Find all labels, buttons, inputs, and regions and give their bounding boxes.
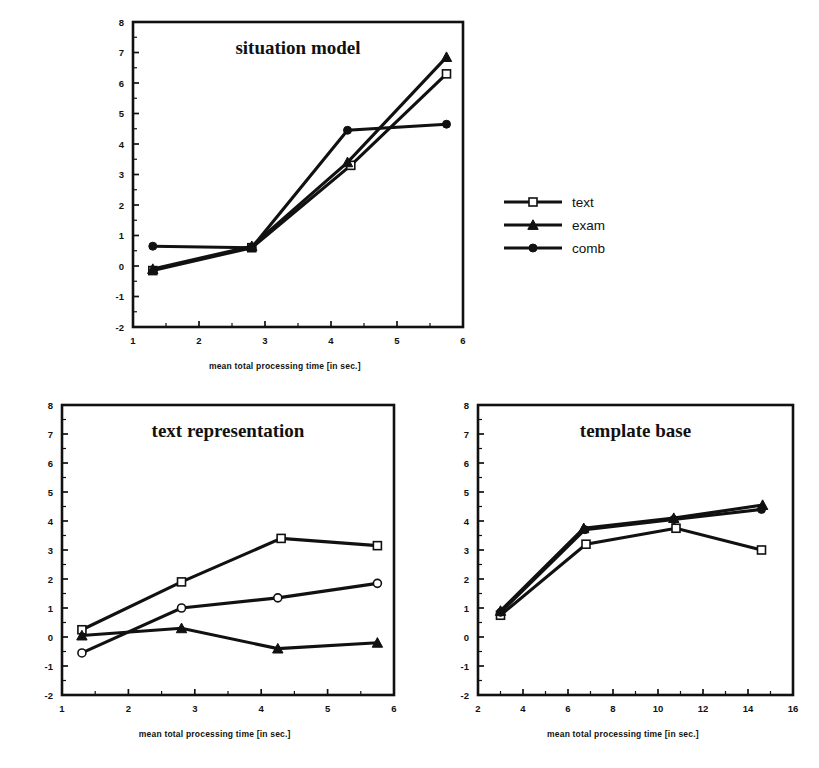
y-tick-label: 7 <box>48 429 53 440</box>
marker-circle-2-3 <box>373 579 381 587</box>
panel-template-base: -2-1012345678246810121416template baseme… <box>438 393 808 753</box>
x-tick-label: 2 <box>475 703 480 714</box>
y-tick-label: 5 <box>464 487 470 498</box>
chart-template-base: -2-1012345678246810121416template baseme… <box>438 393 808 753</box>
chart-situation-model: -2-1012345678123456situation modelmean t… <box>95 10 495 365</box>
legend-svg: textexamcomb <box>500 192 660 272</box>
y-tick-label: 8 <box>464 400 469 411</box>
y-tick-label: 6 <box>119 78 124 89</box>
marker-circle-2-3 <box>443 120 451 128</box>
series-exam <box>148 52 452 274</box>
y-tick-label: 8 <box>48 400 53 411</box>
chart-title: text representation <box>152 420 305 441</box>
x-tick-label: 6 <box>460 335 465 346</box>
y-tick-label: 4 <box>119 139 125 150</box>
marker-circle-2-1 <box>581 526 589 534</box>
marker-circle-2-2 <box>670 516 678 524</box>
series-comb <box>149 120 451 252</box>
marker-triangle-1-3 <box>441 52 451 62</box>
x-tick-label: 5 <box>325 703 331 714</box>
marker-circle-lg2 <box>529 244 537 252</box>
plot-frame <box>62 405 394 695</box>
x-tick-label: 6 <box>391 703 396 714</box>
x-tick-label: 10 <box>653 703 664 714</box>
legend-label: text <box>572 195 594 210</box>
y-tick-label: 2 <box>48 574 53 585</box>
x-tick-label: 8 <box>610 703 615 714</box>
series-line-exam <box>153 57 447 269</box>
panel-situation-model: -2-1012345678123456situation modelmean t… <box>95 10 495 365</box>
marker-circle-2-2 <box>344 126 352 134</box>
marker-square-0-3 <box>443 70 451 78</box>
legend-label: exam <box>572 218 605 233</box>
series-line-text <box>82 538 377 629</box>
x-tick-label: 3 <box>192 703 197 714</box>
marker-square-0-1 <box>582 540 590 548</box>
y-tick-label: 0 <box>119 261 124 272</box>
legend-entry-comb: comb <box>504 241 605 256</box>
y-tick-label: 5 <box>119 108 125 119</box>
y-tick-label: -2 <box>116 322 124 333</box>
x-axis-title: mean total processing time [in sec.] <box>547 729 699 739</box>
marker-square-0-3 <box>758 546 766 554</box>
marker-circle-2-0 <box>149 242 157 250</box>
marker-square-lg0 <box>529 198 537 206</box>
x-tick-label: 3 <box>262 335 267 346</box>
y-tick-label: 1 <box>119 230 125 241</box>
y-tick-label: 3 <box>464 545 469 556</box>
x-tick-label: 14 <box>743 703 754 714</box>
series-line-comb <box>501 509 762 612</box>
series-exam <box>77 623 383 653</box>
chart-text-representation: -2-1012345678123456text representationme… <box>22 393 412 753</box>
plot-frame <box>133 22 463 327</box>
series-text <box>497 524 766 619</box>
y-tick-label: 0 <box>464 632 469 643</box>
y-tick-label: 5 <box>48 487 54 498</box>
y-tick-label: 4 <box>464 516 470 527</box>
x-tick-label: 16 <box>788 703 799 714</box>
y-tick-label: 8 <box>119 17 124 28</box>
series-exam <box>495 500 768 615</box>
x-tick-label: 2 <box>126 703 131 714</box>
series-line-comb <box>153 124 447 248</box>
marker-circle-2-0 <box>497 608 505 616</box>
marker-circle-2-0 <box>78 649 86 657</box>
y-tick-label: 3 <box>119 169 124 180</box>
x-tick-label: 1 <box>59 703 65 714</box>
marker-circle-2-2 <box>274 594 282 602</box>
x-tick-label: 1 <box>130 335 136 346</box>
marker-circle-2-1 <box>248 244 256 252</box>
marker-square-0-2 <box>672 524 680 532</box>
y-tick-label: 4 <box>48 516 54 527</box>
x-tick-label: 6 <box>565 703 570 714</box>
series-text <box>78 534 381 633</box>
y-tick-label: -2 <box>45 690 53 701</box>
plot-frame <box>478 405 793 695</box>
x-tick-label: 4 <box>520 703 526 714</box>
x-tick-label: 12 <box>698 703 709 714</box>
y-tick-label: 7 <box>464 429 469 440</box>
marker-square-0-1 <box>178 578 186 586</box>
y-tick-label: -1 <box>461 661 470 672</box>
x-tick-label: 4 <box>259 703 265 714</box>
legend: textexamcomb <box>500 192 660 272</box>
y-tick-label: 6 <box>48 458 53 469</box>
x-axis-title: mean total processing time [in sec.] <box>209 361 361 371</box>
y-tick-label: 1 <box>464 603 470 614</box>
x-axis-title: mean total processing time [in sec.] <box>139 729 291 739</box>
y-tick-label: -1 <box>45 661 54 672</box>
marker-square-0-3 <box>373 542 381 550</box>
x-tick-label: 2 <box>196 335 201 346</box>
x-tick-label: 5 <box>394 335 400 346</box>
chart-title: template base <box>580 420 691 441</box>
x-tick-label: 4 <box>328 335 334 346</box>
y-tick-label: 3 <box>48 545 53 556</box>
figure-root: -2-1012345678123456situation modelmean t… <box>0 0 819 768</box>
panel-text-representation: -2-1012345678123456text representationme… <box>22 393 412 753</box>
y-tick-label: -1 <box>116 291 125 302</box>
legend-label: comb <box>572 241 605 256</box>
y-tick-label: 0 <box>48 632 53 643</box>
chart-title: situation model <box>235 37 360 58</box>
legend-entry-exam: exam <box>504 218 605 233</box>
marker-circle-2-1 <box>178 604 186 612</box>
